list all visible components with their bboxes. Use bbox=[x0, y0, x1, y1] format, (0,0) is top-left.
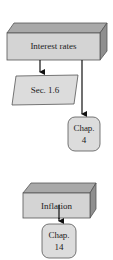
chap-4-label-line2: 4 bbox=[68, 135, 100, 145]
chap-4-label-line1: Chap. bbox=[68, 123, 100, 133]
inflation-label: Inflation bbox=[23, 201, 90, 211]
box-top-face bbox=[23, 183, 96, 193]
chap-14-label-line1: Chap. bbox=[42, 230, 76, 240]
sec-1-6-label: Sec. 1.6 bbox=[14, 85, 76, 95]
chap-14-label-line2: 14 bbox=[42, 242, 76, 252]
box-top-face bbox=[7, 23, 107, 33]
interest-rates-label: Interest rates bbox=[7, 41, 100, 51]
